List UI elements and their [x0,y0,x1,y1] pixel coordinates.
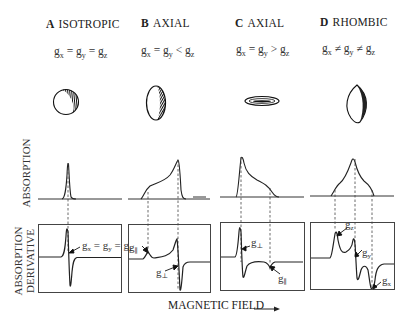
label-d-gz: gz [345,218,354,232]
label-b-gpar: g∥ [129,241,138,255]
absorption-baselines [38,196,394,199]
label-c-gperp: g⊥ [251,236,263,250]
label-c-gpar: g∥ [278,272,287,286]
label-b-gperp: g⊥ [156,266,168,280]
label-d-gx: gx [382,274,392,288]
oblate-spheroid-shape-icon [245,97,279,106]
magnetic-field-arrow-icon [254,307,280,312]
label-isotropic-g: gx = gy = gz [82,239,132,253]
absorption-curve-a [62,164,76,199]
derivative-curve-b [129,239,210,290]
label-d-gy: gy [362,246,372,260]
absorption-curve-c [236,157,279,197]
rhombic-ellipsoid-shape-icon [347,85,366,123]
absorption-curves [62,157,374,199]
derivative-box-a [39,225,122,293]
epr-diagram: gx = gy = gz g∥ g⊥ g⊥ g∥ gz gy gx [0,0,409,320]
derivative-curve-a [39,229,121,286]
absorption-curve-d [331,159,374,196]
derivative-curve-c [221,228,303,278]
derivative-curves [39,228,394,291]
sphere-shape-icon [54,85,83,114]
prolate-spheroid-shape-icon [147,86,166,120]
